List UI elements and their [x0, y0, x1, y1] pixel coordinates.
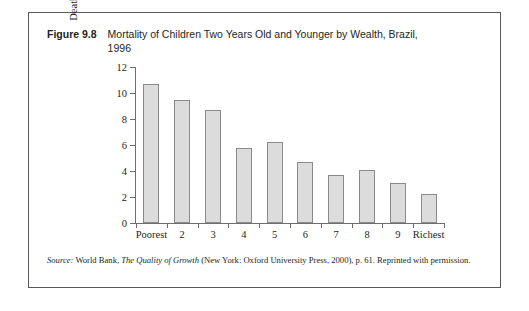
- x-axis-tick: [413, 223, 414, 228]
- y-axis-tick-label: 2: [122, 192, 127, 203]
- y-axis-tick: [130, 67, 136, 68]
- y-axis-title: Deaths per 1,000: [67, 0, 81, 65]
- chart-bar: [236, 148, 252, 223]
- chart-bar: [359, 170, 375, 223]
- chart-bar: [205, 110, 221, 223]
- x-axis-tick: [136, 223, 137, 228]
- chart-bar: [174, 100, 190, 224]
- y-axis-tick: [130, 145, 136, 146]
- x-axis-tick: [321, 223, 322, 228]
- figure-frame: Figure 9.8 Mortality of Children Two Yea…: [28, 12, 501, 288]
- y-axis-tick: [130, 119, 136, 120]
- y-axis-tick-label: 12: [117, 62, 128, 73]
- source-label: Source:: [47, 255, 73, 265]
- x-axis-tick: [228, 223, 229, 228]
- y-axis-tick-label: 0: [122, 218, 127, 229]
- x-axis-tick: [352, 223, 353, 228]
- y-axis-tick-label: 10: [117, 88, 128, 99]
- chart-bar: [390, 183, 406, 223]
- y-axis-tick: [130, 171, 136, 172]
- x-axis-tick: [444, 223, 445, 228]
- source-note: Source: World Bank, The Quality of Growt…: [47, 255, 483, 267]
- y-axis-tick: [130, 93, 136, 94]
- chart-bar: [328, 175, 344, 223]
- x-axis-tick-label: 9: [395, 229, 400, 240]
- x-axis-tick: [290, 223, 291, 228]
- x-axis-tick-label: 4: [241, 229, 246, 240]
- y-axis-tick-label: 6: [122, 140, 127, 151]
- chart-container: Deaths per 1,000 024681012Poorest2345678…: [89, 65, 449, 245]
- y-axis-tick-label: 8: [122, 114, 127, 125]
- y-axis-tick-label: 4: [122, 166, 127, 177]
- figure-title-row: Figure 9.8 Mortality of Children Two Yea…: [47, 27, 477, 55]
- chart-bar: [143, 84, 159, 223]
- x-axis-tick-label: 2: [180, 229, 185, 240]
- x-axis-tick: [382, 223, 383, 228]
- chart-bar: [421, 194, 437, 223]
- x-axis-tick-label: 7: [334, 229, 339, 240]
- plot-area: 024681012Poorest23456789Richest: [135, 67, 444, 224]
- chart-bar: [267, 142, 283, 223]
- x-axis-tick: [259, 223, 260, 228]
- x-axis-tick-label: Poorest: [136, 229, 168, 240]
- chart-bar: [297, 162, 313, 223]
- source-italic-title: The Quality of Growth: [121, 255, 199, 265]
- y-axis-tick: [130, 197, 136, 198]
- x-axis-tick-label: 6: [303, 229, 308, 240]
- x-axis-tick-label: Richest: [413, 229, 445, 240]
- x-axis-tick-label: 5: [272, 229, 277, 240]
- x-axis-tick: [198, 223, 199, 228]
- x-axis-tick-label: 8: [364, 229, 369, 240]
- x-axis-tick-label: 3: [210, 229, 215, 240]
- x-axis-tick: [167, 223, 168, 228]
- page-title: Mortality of Children Two Years Old and …: [108, 27, 438, 55]
- source-text-before: World Bank,: [73, 255, 121, 265]
- source-text-after: (New York: Oxford University Press, 2000…: [199, 255, 470, 265]
- y-axis-title-label: Deaths per 1,000: [67, 0, 81, 65]
